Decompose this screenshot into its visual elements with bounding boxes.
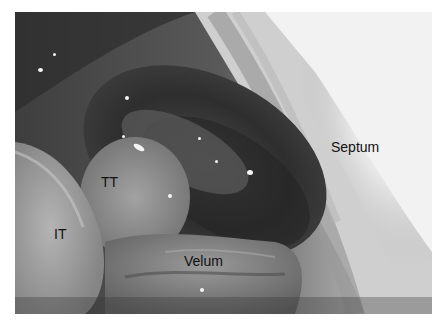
endoscopic-image: Septum TT IT Velum — [15, 12, 432, 314]
label-velum: Velum — [184, 254, 223, 268]
specular-highlight — [215, 160, 218, 163]
specular-highlight — [168, 194, 172, 198]
specular-highlight — [53, 53, 56, 56]
specular-highlight — [198, 137, 201, 140]
label-septum: Septum — [331, 140, 379, 154]
label-tt: TT — [101, 175, 118, 189]
specular-highlight — [122, 135, 125, 138]
label-it: IT — [54, 227, 66, 241]
specular-highlight — [38, 68, 43, 72]
tissue-rendering — [15, 12, 432, 314]
specular-highlight — [247, 170, 253, 175]
specular-highlight — [200, 288, 204, 292]
specular-highlight — [125, 96, 129, 100]
